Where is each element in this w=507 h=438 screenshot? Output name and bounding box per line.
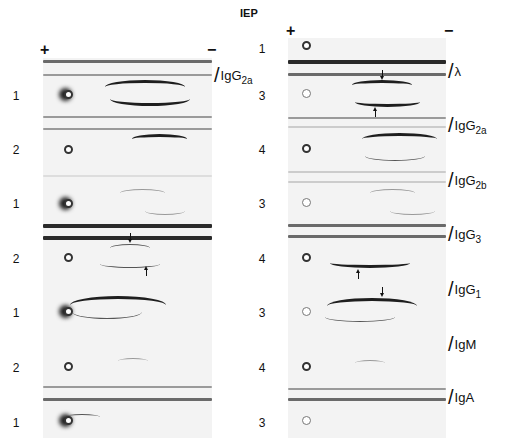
antiserum-label-igg2b: /IgG2b [448, 167, 487, 191]
precipitin-arc [362, 133, 437, 145]
row-number: 1 [10, 416, 22, 430]
antiserum-label-iga: /IgA [448, 384, 474, 407]
trough [43, 60, 212, 63]
row-number: 3 [256, 197, 268, 211]
trough [43, 224, 212, 228]
row-number: 4 [256, 143, 268, 157]
trough [288, 235, 446, 238]
row-number: 3 [256, 89, 268, 103]
sample-well [302, 144, 311, 153]
precipitin-arc [355, 97, 420, 107]
trough [288, 60, 446, 64]
trough [288, 181, 446, 183]
sample-well [302, 253, 311, 262]
trough [288, 171, 446, 173]
trough [288, 117, 446, 119]
row-number: 1 [256, 42, 268, 56]
row-number: 1 [10, 197, 22, 211]
trough [288, 398, 446, 401]
precipitin-arc [390, 207, 435, 215]
arrow-marker [130, 233, 131, 241]
sample-well [302, 416, 311, 425]
precipitin-arc [100, 260, 160, 268]
trough [43, 175, 212, 177]
trough [43, 74, 212, 76]
cathode-minus-right: − [444, 23, 453, 39]
precipitin-arc [110, 244, 150, 252]
trough [288, 388, 446, 390]
sample-well [64, 362, 73, 371]
sample-well [302, 362, 311, 371]
sample-well [302, 307, 311, 316]
row-number: 2 [10, 361, 22, 375]
row-number: 1 [10, 306, 22, 320]
trough [288, 224, 446, 227]
sample-well [64, 199, 73, 208]
row-number: 2 [10, 143, 22, 157]
arrow-marker [146, 268, 147, 276]
row-number: 3 [256, 306, 268, 320]
precipitin-arc [370, 189, 415, 197]
precipitin-arc [64, 414, 100, 420]
cathode-minus-left: − [207, 42, 216, 58]
antiserum-label: /IgG2a [214, 62, 253, 86]
precipitin-arc [365, 151, 425, 161]
trough [43, 116, 212, 118]
sample-well [64, 90, 73, 99]
iep-header: IEP [240, 7, 258, 19]
arrow-marker [375, 109, 376, 117]
trough [288, 73, 446, 76]
anode-plus-right: + [286, 23, 295, 39]
precipitin-arc [352, 80, 412, 90]
sample-well [64, 253, 73, 262]
arrow-marker [358, 271, 359, 279]
arrow-marker [382, 70, 383, 78]
row-number: 3 [256, 416, 268, 430]
precipitin-arc [325, 312, 395, 322]
antiserum-label-igg1: /IgG1 [448, 276, 481, 300]
sample-well [302, 198, 311, 207]
precipitin-arc [145, 207, 185, 215]
precipitin-arc [118, 358, 148, 364]
row-number: 4 [256, 361, 268, 375]
antiserum-label-igg2a: /IgG2a [448, 112, 487, 136]
trough [43, 386, 212, 388]
precipitin-arc [132, 134, 187, 144]
row-number: 2 [10, 252, 22, 266]
precipitin-arc [330, 258, 410, 268]
sample-well [302, 41, 311, 50]
antiserum-label-igg3: /IgG3 [448, 221, 481, 245]
trough [288, 126, 446, 128]
sample-well [302, 89, 311, 98]
antiserum-label-igm: /IgM [448, 331, 476, 354]
precipitin-arc [355, 360, 385, 366]
trough [43, 128, 212, 130]
precipitin-arc [120, 189, 165, 197]
arrow-marker [382, 287, 383, 295]
sample-well [64, 145, 73, 154]
trough [43, 398, 212, 401]
antiserum-label-lambda: /λ [448, 58, 461, 81]
anode-plus-left: + [40, 42, 49, 58]
precipitin-arc [72, 305, 142, 319]
row-number: 4 [256, 252, 268, 266]
row-number: 1 [10, 89, 22, 103]
precipitin-arc [110, 92, 190, 106]
